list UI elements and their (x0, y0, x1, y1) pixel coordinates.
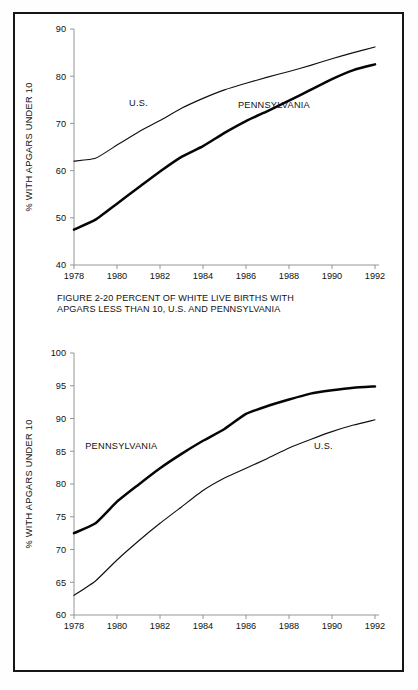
series-label-pennsylvania: PENNSYLVANIA (238, 100, 311, 110)
y-tick-label: 70 (56, 545, 66, 555)
y-tick-label: 80 (56, 479, 66, 489)
y-axis-title: % WITH APGARS UNDER 10 (24, 419, 34, 548)
x-tick-label: 1992 (365, 271, 385, 281)
x-tick-label: 1982 (150, 271, 170, 281)
figure-page: 4050607080901978198019821984198619881990… (0, 0, 418, 690)
figure-outer-border: 4050607080901978198019821984198619881990… (13, 12, 404, 672)
x-tick-label: 1984 (193, 271, 213, 281)
x-tick-label: 1990 (322, 621, 342, 631)
y-tick-label: 60 (56, 166, 66, 176)
y-tick-label: 60 (56, 610, 66, 620)
y-tick-label: 90 (56, 24, 66, 34)
series-line-u-s (74, 47, 375, 161)
chart-plot-area-top: 4050607080901978198019821984198619881990… (15, 14, 402, 294)
figure-2-20-panel: 4050607080901978198019821984198619881990… (15, 14, 402, 344)
y-tick-label: 70 (56, 119, 66, 129)
y-axis-title: % WITH APGARS UNDER 10 (24, 82, 34, 211)
x-tick-label: 1978 (64, 621, 84, 631)
x-tick-label: 1986 (236, 621, 256, 631)
x-tick-label: 1982 (150, 621, 170, 631)
x-tick-label: 1992 (365, 621, 385, 631)
x-tick-label: 1984 (193, 621, 213, 631)
series-label-u-s: U.S. (129, 98, 148, 108)
figure-2-21-panel: 6065707580859095100197819801982198419861… (15, 344, 402, 674)
x-tick-label: 1988 (279, 621, 299, 631)
x-tick-label: 1980 (107, 621, 127, 631)
y-tick-label: 100 (51, 348, 66, 358)
y-tick-label: 95 (56, 381, 66, 391)
x-tick-label: 1980 (107, 271, 127, 281)
y-tick-label: 75 (56, 512, 66, 522)
y-tick-label: 90 (56, 414, 66, 424)
series-line-pennsylvania (74, 386, 375, 533)
x-tick-label: 1986 (236, 271, 256, 281)
series-line-pennsylvania (74, 64, 375, 229)
y-tick-label: 85 (56, 447, 66, 457)
series-label-pennsylvania: PENNSYLVANIA (85, 441, 158, 451)
y-tick-label: 80 (56, 72, 66, 82)
x-tick-label: 1990 (322, 271, 342, 281)
x-tick-label: 1988 (279, 271, 299, 281)
y-tick-label: 65 (56, 578, 66, 588)
figure-2-20-caption: FIGURE 2-20 PERCENT OF WHITE LIVE BIRTHS… (57, 293, 387, 316)
x-tick-label: 1978 (64, 271, 84, 281)
chart-plot-area-bottom: 6065707580859095100197819801982198419861… (15, 344, 402, 644)
series-label-u-s: U.S. (314, 441, 333, 451)
y-tick-label: 50 (56, 213, 66, 223)
y-tick-label: 40 (56, 260, 66, 270)
